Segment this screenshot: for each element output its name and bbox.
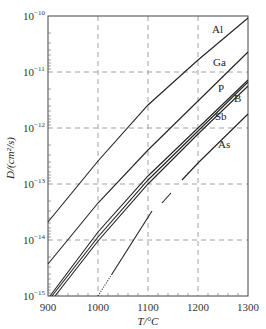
x-axis-title: T/°C [138,315,160,327]
y-tick-1e-10: 10−10 [23,9,45,22]
diffusion-chart: Al Ga P B Sb As 10−10 10−11 10−12 10−13 … [0,0,266,329]
label-b: B [234,92,241,104]
y-axis-title: D/(cm²/s) [4,137,17,180]
y-tick-1e-13: 10−13 [23,177,45,190]
label-p: P [218,82,224,94]
series-labels: Al Ga P B Sb As [212,23,241,150]
label-ga: Ga [213,56,226,68]
series-as-seg2 [162,193,171,203]
series-as-seg1 [112,211,152,274]
y-tick-1e-12: 10−12 [23,121,45,134]
y-tick-1e-11: 10−11 [23,65,45,78]
x-tick-1200: 1200 [187,301,210,313]
y-tick-labels: 10−10 10−11 10−12 10−13 10−14 10−15 [23,9,45,302]
series-as-seg3 [182,114,248,180]
x-tick-1000: 1000 [87,301,110,313]
x-tick-1100: 1100 [137,301,159,313]
x-tick-1300: 1300 [237,301,260,313]
label-as: As [218,138,230,150]
x-tick-900: 900 [40,301,57,313]
y-tick-1e-14: 10−14 [23,233,45,246]
label-al: Al [212,23,223,35]
series-as-dotted [98,274,112,296]
x-tick-labels: 900 1000 1100 1200 1300 [40,301,260,313]
label-sb: Sb [215,110,227,122]
